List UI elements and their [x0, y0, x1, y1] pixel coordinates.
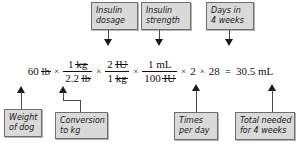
result-value: 30.5	[236, 65, 255, 77]
dimensional-analysis-diagram: Insulin dosage Insulin strength Days in …	[0, 0, 301, 147]
callout-weight-of-dog: Weight of dog	[4, 109, 42, 137]
callout-insulin-dosage-line2: dosage	[96, 16, 125, 26]
fraction-conversion-kg-denominator: 2.2 lb	[63, 73, 92, 84]
num-unit: IU	[116, 59, 128, 70]
callout-times-per-day-line2: per day	[179, 126, 210, 136]
den-unit: kg	[116, 73, 127, 84]
callout-total-needed-for-4-weeks: Total needed for 4 weeks	[235, 112, 295, 140]
fraction-insulin-strength: 1 mL 100 IU	[141, 59, 178, 84]
arrow-down-icon-days-in-4-weeks	[225, 39, 233, 46]
callout-weight-of-dog-line1: Weight	[9, 113, 37, 123]
callout-insulin-strength-line1: Insulin	[146, 6, 172, 16]
connector-conversion-to-kg-elbow	[63, 100, 81, 101]
arrow-down-icon-insulin-strength	[155, 39, 163, 46]
den-unit: IU	[163, 73, 175, 84]
den-value: 100	[144, 72, 161, 84]
equation: 60 lb × 1 kg 2.2 lb × 2 IU 1 kg × 1 mL 1…	[0, 56, 301, 86]
callout-times-per-day: Times per day	[174, 112, 218, 140]
callout-days-in-4-weeks-line2: 4 weeks	[211, 16, 244, 26]
fraction-conversion-kg-numerator: 1 kg	[66, 59, 89, 70]
connector-conversion-to-kg-drop	[80, 100, 81, 112]
callout-conversion-to-kg-line2: to kg	[60, 126, 80, 136]
num-value: 1	[68, 58, 74, 70]
callout-days-in-4-weeks: Days in 4 weeks	[206, 2, 254, 30]
equation-start-term: 60 lb	[27, 65, 51, 77]
num-unit: mL	[156, 58, 171, 70]
operator-times-4: ×	[178, 66, 189, 76]
num-value: 1	[148, 58, 154, 70]
connector-total-needed	[272, 90, 273, 112]
operator-equals: =	[221, 65, 235, 77]
callout-insulin-dosage-line1: Insulin	[96, 6, 122, 16]
result: 30.5 mL	[235, 65, 274, 77]
fraction-insulin-dosage-numerator: 2 IU	[105, 59, 129, 70]
callout-conversion-to-kg: Conversion to kg	[55, 112, 108, 139]
result-unit: mL	[258, 65, 273, 77]
factor-times-per-day: 2	[189, 65, 197, 77]
callout-weight-of-dog-line2: of dog	[9, 123, 34, 133]
den-value: 2.2	[65, 72, 79, 84]
operator-times-2: ×	[93, 66, 104, 76]
callout-days-in-4-weeks-line1: Days in	[211, 6, 241, 16]
connector-weight-of-dog	[21, 92, 22, 109]
arrow-down-icon-insulin-dosage	[104, 39, 112, 46]
start-value: 60	[28, 65, 39, 77]
den-unit: lb	[82, 73, 91, 84]
callout-total-needed-line2: for 4 weeks	[240, 126, 286, 136]
callout-times-per-day-line1: Times	[179, 116, 203, 126]
callout-insulin-strength-line2: strength	[146, 16, 180, 26]
fraction-insulin-dosage: 2 IU 1 kg	[104, 59, 130, 84]
num-unit: kg	[76, 59, 87, 70]
fraction-insulin-strength-denominator: 100 IU	[142, 73, 177, 84]
callout-conversion-to-kg-line1: Conversion	[60, 116, 105, 126]
connector-times-per-day	[196, 90, 197, 112]
callout-insulin-dosage: Insulin dosage	[91, 2, 138, 30]
fraction-insulin-strength-numerator: 1 mL	[146, 59, 174, 70]
factor-days: 28	[208, 65, 221, 77]
operator-times-5: ×	[197, 66, 208, 76]
operator-times-3: ×	[130, 66, 141, 76]
operator-times-1: ×	[51, 66, 62, 76]
callout-total-needed-line1: Total needed	[240, 116, 292, 126]
den-value: 1	[108, 72, 114, 84]
start-unit: lb	[42, 65, 51, 77]
num-value: 2	[107, 58, 113, 70]
callout-insulin-strength: Insulin strength	[141, 2, 191, 30]
fraction-conversion-kg: 1 kg 2.2 lb	[62, 59, 93, 84]
fraction-insulin-dosage-denominator: 1 kg	[106, 73, 129, 84]
